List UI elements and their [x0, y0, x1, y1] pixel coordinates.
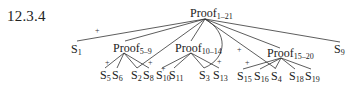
plus-marker: +: [161, 65, 166, 73]
leaf-s11: S11: [169, 69, 183, 81]
plus-marker: +: [105, 59, 110, 67]
plus-marker: +: [95, 27, 100, 35]
section-number: 12.3.4: [7, 8, 46, 25]
leaf-s19: S19: [305, 70, 320, 82]
leaf-s4: S4: [271, 70, 282, 82]
plus-marker: +: [148, 59, 153, 67]
leaf-s13: S13: [213, 69, 228, 81]
leaf-s2: S2: [131, 69, 142, 81]
leaf-s16: S16: [254, 70, 269, 82]
leaf-s5: S5: [100, 69, 111, 81]
node-s9: S9: [334, 43, 345, 55]
plus-marker: +: [217, 58, 222, 66]
node-proof-5-9: Proof5–9: [113, 42, 152, 54]
leaf-s8: S8: [143, 69, 154, 81]
node-s1: S1: [71, 43, 82, 55]
plus-marker: +: [237, 46, 242, 54]
plus-marker: +: [245, 59, 250, 67]
node-root-proof-1-21: Proof1–21: [190, 7, 233, 19]
leaf-s3: S3: [199, 69, 210, 81]
leaf-s6: S6: [112, 69, 123, 81]
leaf-s18: S18: [289, 70, 304, 82]
node-proof-15-20: Proof15–20: [267, 47, 314, 59]
proof-tree-figure: 12.3.4 Proof1–21 S1 Proof5–9 Proof10–14 …: [0, 0, 350, 85]
node-proof-10-14: Proof10–14: [175, 42, 222, 54]
leaf-s15: S15: [237, 70, 252, 82]
